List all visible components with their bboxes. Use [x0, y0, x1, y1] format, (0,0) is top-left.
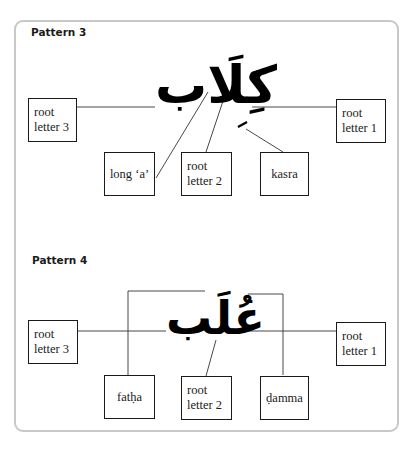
- box-text-line: root: [342, 106, 385, 121]
- pattern4-box-root-letter-3: root letter 3: [28, 320, 78, 364]
- pattern4-title: Pattern 4: [32, 254, 87, 266]
- box-text-line: letter 3: [34, 342, 77, 357]
- box-text-line: root: [342, 329, 385, 344]
- pattern3-box-root-letter-1: root letter 1: [336, 99, 386, 143]
- box-text-line: root: [34, 327, 77, 342]
- pattern3-title: Pattern 3: [31, 26, 86, 38]
- pattern3-box-kasra: kasra: [260, 152, 309, 196]
- pattern4-box-root-letter-2: root letter 2: [181, 376, 232, 420]
- pattern4-box-fatha: fatḥa: [104, 375, 155, 419]
- pattern4-box-root-letter-1: root letter 1: [336, 322, 386, 366]
- box-text-line: letter 1: [342, 344, 385, 359]
- pattern3-arabic-word: كِلَاب: [155, 50, 277, 120]
- pattern3-box-long-a: long ‘a’: [104, 152, 155, 196]
- box-text: fatḥa: [117, 390, 142, 405]
- box-text: ḍamma: [266, 391, 303, 406]
- box-text-line: letter 2: [187, 174, 231, 189]
- box-text-line: root: [187, 383, 231, 398]
- pattern3-box-root-letter-2: root letter 2: [181, 152, 232, 196]
- box-text-line: letter 3: [34, 120, 76, 135]
- box-text: kasra: [271, 167, 297, 182]
- pattern4-box-damma: ḍamma: [260, 376, 309, 420]
- box-text-line: letter 2: [187, 398, 231, 413]
- box-text: long ‘a’: [110, 167, 149, 182]
- box-text-line: root: [187, 159, 231, 174]
- box-text-line: letter 1: [342, 121, 385, 136]
- pattern4-arabic-word: عُلَب: [166, 288, 265, 348]
- pattern3-box-root-letter-3: root letter 3: [28, 98, 77, 142]
- box-text-line: root: [34, 105, 76, 120]
